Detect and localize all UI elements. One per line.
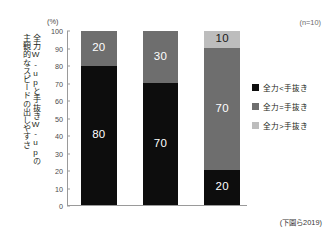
- bar-segment: 70: [204, 48, 240, 170]
- bar-segment-value: 30: [154, 51, 167, 63]
- plot-area: 0102030405060708090100 20803070107020: [67, 31, 240, 206]
- sample-size-note: (n=10): [299, 18, 321, 27]
- legend-swatch-icon: [252, 103, 259, 110]
- stacked-bar: 107020: [204, 31, 240, 205]
- y-axis-tick-label: 70: [55, 79, 67, 88]
- y-axis-tick-label: 50: [55, 114, 67, 123]
- y-axis-tick-label: 10: [55, 184, 67, 193]
- bar-segment-value: 70: [154, 138, 167, 150]
- bar-segment-value: 20: [215, 181, 228, 193]
- bar-segment: 20: [204, 170, 240, 205]
- bar-segment-value: 70: [215, 103, 228, 115]
- y-axis-tick-label: 40: [55, 132, 67, 141]
- y-axis-title-line-2: 主観的なスピードの出しやすさ: [21, 34, 30, 149]
- bar-segment-value: 10: [215, 33, 228, 45]
- legend-item[interactable]: 全力=手抜き: [252, 101, 308, 112]
- legend-item-label: 全力=手抜き: [263, 101, 308, 112]
- y-axis-tick-label: 90: [55, 44, 67, 53]
- bar-segment: 30: [143, 31, 179, 83]
- y-axis-title-line-1: 全力W-upと手抜きW-upの: [31, 34, 40, 165]
- y-axis-title: 全力W-upと手抜きW-upの 主観的なスピードの出しやすさ: [12, 34, 48, 206]
- bar-segment: 80: [81, 66, 117, 205]
- stacked-bar: 2080: [81, 31, 117, 205]
- y-axis-tick-label: 20: [55, 167, 67, 176]
- y-axis-tick-label: 30: [55, 149, 67, 158]
- x-axis-line: [67, 205, 247, 206]
- y-axis-tick-label: 100: [51, 27, 67, 36]
- y-axis-tick-label: 0: [59, 202, 67, 211]
- bar-segment-value: 20: [92, 42, 105, 54]
- bar-segment: 70: [143, 83, 179, 205]
- legend-item[interactable]: 全力<手抜き: [252, 82, 308, 93]
- legend-swatch-icon: [252, 122, 259, 129]
- y-axis-tick-label: 60: [55, 97, 67, 106]
- y-axis-tick-mark: [67, 206, 70, 207]
- legend-swatch-icon: [252, 84, 259, 91]
- y-axis-tick-label: 80: [55, 62, 67, 71]
- legend-item-label: 全力<手抜き: [263, 82, 308, 93]
- bar-segment: 20: [81, 31, 117, 66]
- y-axis-unit-label: (%): [47, 17, 59, 26]
- bar-group: 20803070107020: [68, 31, 240, 205]
- legend-item[interactable]: 全力>手抜き: [252, 120, 308, 131]
- bar-segment-value: 80: [92, 129, 105, 141]
- chart-container: 全力W-upと手抜きW-upの 主観的なスピードの出しやすさ (%) (n=10…: [0, 0, 332, 238]
- legend: 全力<手抜き全力=手抜き全力>手抜き: [252, 82, 308, 131]
- source-note: (下園ら2019): [280, 216, 322, 227]
- bar-segment: 10: [204, 31, 240, 48]
- legend-item-label: 全力>手抜き: [263, 120, 308, 131]
- stacked-bar: 3070: [143, 31, 179, 205]
